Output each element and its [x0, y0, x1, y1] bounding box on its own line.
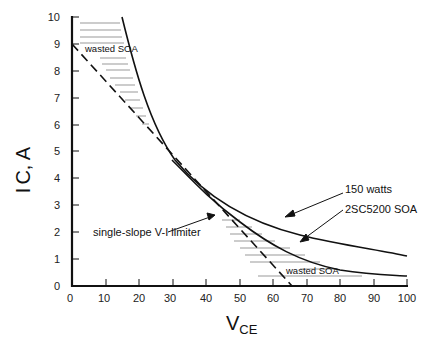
label-wasted-soa-bottom: wasted SOA [285, 265, 339, 276]
label-limiter: single-slope V-I limiter [93, 226, 201, 238]
svg-text:2: 2 [54, 226, 60, 238]
svg-text:8: 8 [54, 65, 60, 77]
svg-text:60: 60 [267, 292, 279, 304]
svg-text:50: 50 [234, 292, 246, 304]
svg-text:90: 90 [368, 292, 380, 304]
svg-text:20: 20 [133, 292, 145, 304]
svg-text:80: 80 [334, 292, 346, 304]
svg-text:6: 6 [54, 119, 60, 131]
svg-text:4: 4 [54, 172, 60, 184]
svg-text:10: 10 [48, 11, 60, 23]
svg-text:70: 70 [301, 292, 313, 304]
x-axis-title: VCE [226, 312, 258, 337]
svg-text:3: 3 [54, 199, 60, 211]
label-2sc5200-soa: 2SC5200 SOA [345, 203, 418, 215]
curve-limiter [72, 44, 292, 286]
curve-150w [122, 17, 407, 256]
svg-text:5: 5 [54, 145, 60, 157]
svg-text:1: 1 [54, 253, 60, 265]
hatch-top [80, 23, 149, 124]
svg-text:0: 0 [54, 280, 60, 292]
svg-text:10: 10 [98, 292, 110, 304]
svg-text:40: 40 [200, 292, 212, 304]
label-wasted-soa-top: wasted SOA [84, 43, 138, 54]
svg-text:9: 9 [54, 38, 60, 50]
soa-chart: 1098 765 432 10 01020 304050 607080 9010… [0, 0, 431, 349]
svg-text:7: 7 [54, 92, 60, 104]
svg-text:30: 30 [164, 292, 176, 304]
svg-text:100: 100 [398, 292, 416, 304]
x-tick-labels: 01020 304050 607080 90100 [67, 292, 416, 304]
svg-text:0: 0 [67, 292, 73, 304]
y-tick-labels: 1098 765 432 10 [48, 11, 60, 292]
label-150-watts: 150 watts [345, 183, 393, 195]
y-axis-title: IC, A [12, 146, 34, 193]
